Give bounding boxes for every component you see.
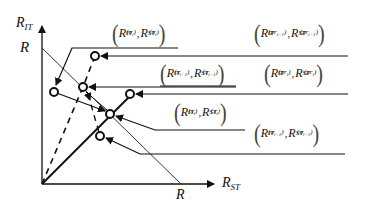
paren-left: (: [160, 62, 167, 85]
r-symbol: R: [194, 66, 201, 81]
x-axis-label-sub: ST: [231, 182, 241, 192]
annotation-x-i: ( RIT(xi) , RST(xi) ): [174, 103, 227, 121]
solid-ray: [42, 96, 130, 184]
annotation-pr-i: ( RIT(pri) , RST(pri) ): [264, 64, 323, 82]
r-symbol: R: [181, 105, 188, 120]
comma: ,: [190, 68, 193, 79]
r-symbol: R: [261, 126, 268, 141]
paren-right: ): [318, 22, 325, 45]
annotation-o-i: ( RIT(oi) , RST(oi) ): [112, 24, 165, 42]
annotation-x-i1: ( RIT(xi+1) , RST(xi+1) ): [160, 64, 224, 82]
sup-close: ): [187, 68, 189, 76]
sup-close: ): [195, 107, 197, 115]
r-symbol: R: [271, 66, 278, 81]
sup-pr: (pr: [278, 68, 287, 76]
y-axis-label: RIT: [16, 16, 33, 34]
comma: ,: [292, 68, 295, 79]
sup-sub: i+1: [277, 33, 284, 38]
y-axis-label-base: R: [16, 15, 25, 30]
annotation-pr-i1: ( RIT(pri+1) , RST(pri+1) ): [254, 24, 325, 42]
comma: ,: [198, 107, 201, 118]
x-intercept-label: R: [176, 188, 185, 201]
comma: ,: [287, 28, 290, 39]
sup-sub: i+1: [180, 73, 187, 78]
sup-sub: i+1: [308, 33, 315, 38]
r-symbol: R: [167, 66, 174, 81]
comma: ,: [285, 128, 288, 139]
sup-close: ): [133, 28, 135, 36]
paren-right: ): [313, 122, 320, 145]
r-symbol: R: [288, 126, 295, 141]
paren-left: (: [112, 22, 119, 45]
paren-left: (: [254, 22, 261, 45]
r-symbol: R: [119, 26, 126, 41]
dashed-ray-1: [42, 87, 83, 184]
r-symbol: R: [202, 105, 209, 120]
y-axis-label-sub: IT: [25, 22, 33, 32]
r-symbol: R: [261, 26, 268, 41]
point-x-i1: [79, 83, 87, 91]
point-pr-i1: [91, 52, 99, 60]
paren-left: (: [174, 101, 181, 124]
sup-close: ): [288, 68, 290, 76]
diagram-canvas: RIT R R RST ( RIT(oi) , RST(oi) ) ( RIT(…: [0, 0, 365, 210]
paren-right: ): [220, 101, 227, 124]
paren-left: (: [254, 122, 261, 145]
x-axis-label: RST: [222, 176, 240, 194]
r-symbol: R: [295, 66, 302, 81]
paren-left: (: [264, 62, 271, 85]
paren-right: ): [316, 62, 323, 85]
point-o-i1: [96, 132, 104, 140]
sup-close: ): [284, 28, 286, 36]
sup-close: ): [281, 128, 283, 136]
point-pr-i: [126, 90, 134, 98]
x-axis-label-base: R: [222, 175, 231, 190]
sup-pr: (pr: [268, 28, 277, 36]
dashed-ray-3: [88, 94, 100, 136]
annotation-o-i1: ( RIT(oi+1) , RST(oi+1) ): [254, 124, 319, 142]
r-symbol: R: [140, 26, 147, 41]
y-intercept-label: R: [20, 41, 29, 54]
point-o-i-prime: [50, 88, 58, 96]
r-symbol: R: [291, 26, 298, 41]
paren-right: ): [218, 62, 225, 85]
point-x-i: [106, 110, 114, 118]
paren-right: ): [159, 22, 166, 45]
